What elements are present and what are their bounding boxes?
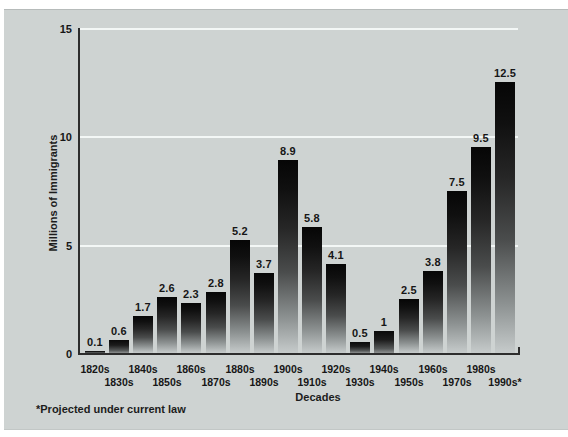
decade-label: 1980s: [458, 363, 504, 376]
bar: [206, 292, 226, 353]
bar: [423, 271, 443, 353]
x-axis-title: Decades: [268, 391, 368, 405]
bar-value-label: 5.8: [290, 212, 334, 225]
y-axis-line: [78, 28, 80, 355]
bar: [495, 82, 515, 353]
bar: [230, 240, 250, 353]
footnote: *Projected under current law: [36, 403, 186, 417]
decade-label: 1970s: [434, 376, 480, 389]
decade-label: 1870s: [193, 376, 239, 389]
x-axis-end-tick: [518, 347, 520, 355]
gridline-15: [80, 28, 518, 30]
decade-label: 1960s: [410, 363, 456, 376]
x-axis-line: [78, 353, 520, 355]
bar: [350, 342, 370, 353]
bar-value-label: 8.9: [266, 145, 310, 158]
bar: [85, 351, 105, 353]
decade-label: 1850s: [144, 376, 190, 389]
decade-label: 1950s: [386, 376, 432, 389]
y-axis-title: Millions of Immigrants: [47, 93, 61, 293]
bar: [302, 227, 322, 353]
bar: [109, 340, 129, 353]
gridline-10: [80, 136, 518, 138]
bar: [181, 303, 201, 353]
bar: [254, 273, 274, 353]
figure: 0510150.11820s0.61830s1.71840s2.61850s2.…: [0, 0, 568, 437]
bar-value-label: 4.1: [314, 249, 358, 262]
decade-label: 1930s: [337, 376, 383, 389]
bar: [399, 299, 419, 353]
bar: [278, 160, 298, 353]
y-tick-label-15: 15: [42, 23, 72, 36]
decade-label: 1860s: [168, 363, 214, 376]
y-tick-label-0: 0: [42, 348, 72, 361]
decade-label: 1900s: [265, 363, 311, 376]
bar: [374, 331, 394, 353]
bar: [447, 191, 467, 353]
decade-label: 1940s: [361, 363, 407, 376]
decade-label: 1840s: [120, 363, 166, 376]
decade-label: 1820s: [72, 363, 118, 376]
bar: [157, 297, 177, 353]
decade-label: 1890s: [241, 376, 287, 389]
decade-label: 1990s*: [482, 376, 528, 389]
decade-label: 1830s: [96, 376, 142, 389]
decade-label: 1880s: [217, 363, 263, 376]
decade-label: 1910s: [289, 376, 335, 389]
bar-value-label: 12.5: [483, 67, 527, 80]
bar: [133, 316, 153, 353]
decade-label: 1920s: [313, 363, 359, 376]
bar: [471, 147, 491, 353]
bar-value-label: 5.2: [218, 225, 262, 238]
